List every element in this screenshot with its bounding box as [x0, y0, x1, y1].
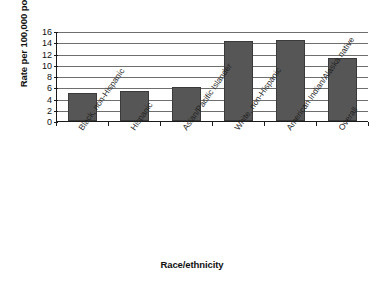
y-axis-tick-label: 14: [42, 39, 52, 48]
x-axis-tick-mark: [316, 122, 317, 126]
y-axis-tick-label: 4: [47, 95, 52, 104]
x-axis-tick-mark: [56, 122, 57, 126]
y-axis-tick-label: 12: [42, 50, 52, 59]
x-axis-title: Race/ethnicity: [0, 259, 384, 270]
y-axis-tick-label: 0: [47, 118, 52, 127]
y-axis-title: Rate per 100,000 population: [18, 0, 29, 101]
x-axis-tick-mark: [264, 122, 265, 126]
y-axis-tick-label: 8: [47, 73, 52, 82]
y-axis-tick-label: 2: [47, 106, 52, 115]
y-axis-tick-label: 10: [42, 61, 52, 70]
x-axis-category-labels: Black, non-HispanicHispanicAsian/Pacific…: [56, 127, 368, 247]
x-axis-tick-mark: [212, 122, 213, 126]
x-axis-tick-mark: [108, 122, 109, 126]
y-axis-tick-label: 6: [47, 84, 52, 93]
bar-chart: Rate per 100,000 population 024681012141…: [0, 0, 384, 283]
x-axis-tick-mark: [368, 122, 369, 126]
y-axis-tick-label: 16: [42, 28, 52, 37]
x-axis-tick-mark: [160, 122, 161, 126]
